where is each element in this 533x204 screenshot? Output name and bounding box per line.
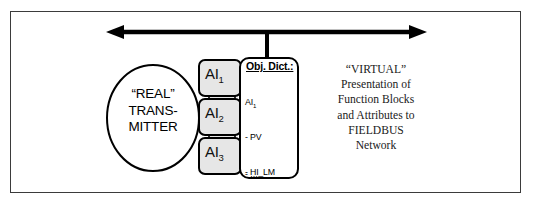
- arrow-left-head-icon: [106, 25, 124, 39]
- od-entry: - HI_HI_LM: [245, 202, 294, 204]
- ai-block-1-label: AI1: [205, 65, 224, 85]
- real-transmitter-label: “REAL” TRANS- MITTER: [108, 86, 198, 136]
- virtual-presentation-text: “VIRTUAL” Presentation of Function Block…: [306, 62, 446, 153]
- ai-block-3-label: AI3: [205, 143, 224, 163]
- arrow-right-head-icon: [409, 25, 427, 39]
- diagram-canvas: “REAL” TRANS- MITTER AI1 AI2 AI3 Obj. Di…: [0, 0, 533, 204]
- ai-block-2-label: AI2: [205, 104, 224, 124]
- object-dictionary-ellipsis: - ...: [245, 169, 258, 179]
- object-dictionary-entries: AI1 - PV - HI_LM - HI_HI_LM - ALM_SUM - …: [245, 74, 294, 204]
- od-entry: - PV: [245, 132, 294, 144]
- object-dictionary-title: Obj. Dict.:: [246, 60, 293, 72]
- od-entry-first: AI1: [245, 97, 294, 109]
- bidirectional-network-arrow: [106, 25, 427, 60]
